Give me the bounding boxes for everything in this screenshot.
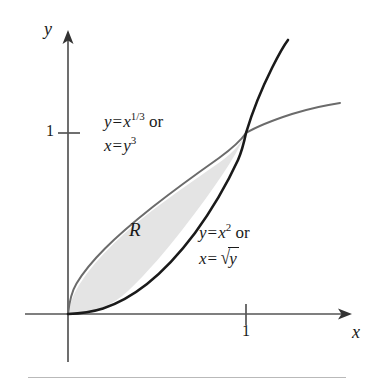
x-axis-tick-label-1: 1 (242, 322, 250, 340)
lower-exp-1: 2 (226, 221, 232, 233)
lower-curve-annotation-line2: x=√y (199, 244, 250, 270)
region-r-label: R (129, 219, 141, 241)
upper-or-1: or (149, 112, 163, 131)
bottom-divider (28, 377, 346, 378)
upper-eq-2: = (112, 136, 124, 155)
square-root-icon: √y (218, 244, 239, 270)
radical-sign: √ (221, 244, 230, 270)
upper-lhs-1: y (104, 112, 112, 131)
upper-lhs-2: x (104, 136, 112, 155)
upper-curve-annotation: y=x1/3 or x=y3 (104, 109, 163, 157)
upper-eq-1: = (112, 112, 124, 131)
lower-eq-1: = (207, 223, 219, 242)
math-figure-region-r: y x 1 1 R y=x1/3 or x=y3 y=x2 or x=√y (0, 0, 373, 382)
upper-base-1: x (123, 112, 131, 131)
x-axis-label: x (352, 322, 360, 343)
upper-curve-annotation-line1: y=x1/3 or (104, 109, 163, 133)
upper-curve-annotation-line2: x=y3 (104, 133, 163, 157)
lower-or-1: or (235, 223, 249, 242)
lower-lhs-2: x (199, 249, 207, 268)
lower-curve-annotation: y=x2 or x=√y (199, 220, 250, 271)
upper-exp-1: 1/3 (131, 110, 145, 122)
lower-curve-annotation-line1: y=x2 or (199, 220, 250, 244)
lower-base-1: x (218, 223, 226, 242)
upper-base-2: y (123, 136, 131, 155)
y-axis-label: y (44, 19, 52, 40)
plot-svg (0, 0, 373, 382)
lower-eq-2: = (207, 249, 219, 268)
lower-lhs-1: y (199, 223, 207, 242)
upper-exp-2: 3 (131, 134, 137, 146)
y-axis-tick-label-1: 1 (46, 122, 54, 140)
